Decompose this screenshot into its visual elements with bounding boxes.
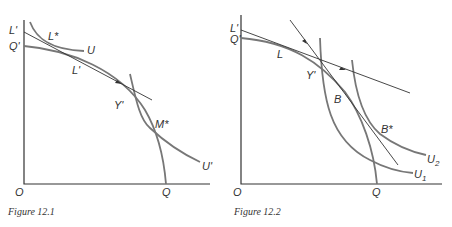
label-q: Q <box>162 186 171 198</box>
label-q-prime: Q' <box>230 33 242 45</box>
label-l-star: L* <box>48 30 59 42</box>
steep-price-line <box>290 20 398 165</box>
label-l: L <box>277 48 283 60</box>
transformation-curve <box>241 38 377 184</box>
label-m-star: M* <box>155 118 169 130</box>
label-q: Q <box>372 186 381 198</box>
label-u: U <box>87 44 95 56</box>
price-line <box>24 32 152 100</box>
axes <box>241 15 442 184</box>
label-b-star: B* <box>381 123 393 135</box>
label-l-prime-axis: L' <box>9 24 18 36</box>
label-y-prime: Y' <box>114 99 124 111</box>
label-origin: O <box>15 186 24 198</box>
label-u2: U2 <box>427 153 440 168</box>
diagram-canvas: L' Q' L* U L' Y' M* U' O Q Figure 12.1 L… <box>0 0 452 227</box>
label-origin: O <box>233 186 242 198</box>
indifference-curve-u2 <box>352 60 426 155</box>
caption-figure-12-2: Figure 12.2 <box>233 206 281 217</box>
indifference-curve-u1 <box>320 38 413 173</box>
figure-12-2: L' Q' L Y' B B* U2 U1 O Q Figure 12.2 <box>230 15 442 217</box>
label-u1: U1 <box>414 168 426 183</box>
caption-figure-12-1: Figure 12.1 <box>7 206 55 217</box>
label-q-prime: Q' <box>9 40 21 52</box>
label-l-prime: L' <box>72 64 81 76</box>
label-b: B <box>334 93 341 105</box>
price-line <box>241 30 410 93</box>
label-u-prime: U' <box>202 160 213 172</box>
transformation-curve <box>24 46 166 184</box>
figure-12-1: L' Q' L* U L' Y' M* U' O Q Figure 12.1 <box>7 20 213 217</box>
label-y-prime: Y' <box>306 69 316 81</box>
